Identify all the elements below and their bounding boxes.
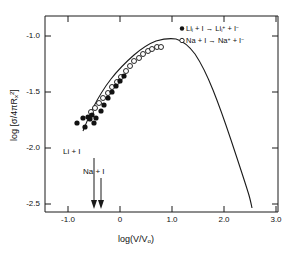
legend-li-reactant-sub: i [192, 27, 193, 33]
y-axis-title-prefix: log [ [9, 124, 19, 141]
series-na-points [89, 45, 164, 115]
legend-na-reactant: Na [186, 36, 196, 45]
y-tick-label-1: -1.5 [16, 88, 40, 96]
annotation-label-li: Li + I [63, 147, 81, 156]
annotation-arrow-li [91, 158, 97, 209]
legend-label-na: Na + I → Na+ + I− [186, 36, 244, 45]
x-tick-label-0: -1.0 [55, 216, 81, 224]
x-axis-title-prefix: log(V/V [118, 234, 148, 244]
model-curve [83, 39, 252, 208]
legend-na-product-sup: + [228, 36, 231, 42]
y-tick-label-3: -2.5 [16, 200, 40, 208]
legend-na-product: Na [218, 36, 228, 45]
x-tick-label-3: 2.0 [211, 216, 237, 224]
sigma-symbol: σ [9, 118, 19, 124]
x-tick-label-1: 0 [107, 216, 133, 224]
legend-li-arrow: → [206, 24, 214, 33]
annotation-arrow-na [98, 178, 104, 209]
legend-li-product-sup: + [222, 24, 225, 30]
y-axis-title-suffix: ] [9, 89, 19, 92]
y-axis-ticks [45, 36, 278, 204]
legend-na-plus-2: + [233, 36, 237, 45]
legend-entry-li: Lii + I → Lii+ + I− [179, 24, 239, 33]
legend-label-li: Lii + I → Lii+ + I− [186, 24, 239, 33]
plot-canvas [0, 0, 291, 260]
annotation-label-na: Na + I [83, 167, 105, 176]
y-tick-label-2: -2.0 [16, 144, 40, 152]
x-tick-label-4: 3.0 [263, 216, 289, 224]
y-axis-title-sup: 2 [8, 92, 15, 95]
y-tick-label-0: -1.0 [16, 32, 40, 40]
y-axis-title: log [σ/4πRx2] [9, 55, 19, 175]
legend-na-arrow: → [208, 36, 216, 45]
legend-li-plus-1: + [195, 24, 199, 33]
legend-na-plus-1: + [198, 36, 202, 45]
y-axis-title-mid: /4πR [9, 98, 19, 118]
legend-na-partner: I [204, 36, 206, 45]
legend-li-product-partner-sup: − [236, 24, 239, 30]
x-axis-title: log(V/Vo) [118, 235, 154, 244]
legend-li-partner: I [202, 24, 204, 33]
legend-li-plus-2: + [227, 24, 231, 33]
legend-entry-na: Na + I → Na+ + I− [179, 36, 244, 45]
x-axis-title-suffix: ) [151, 234, 154, 244]
figure-panel: -1.0 -1.5 -2.0 -2.5 -1.0 0 1.0 2.0 3.0 l… [0, 0, 291, 260]
legend-na-product-partner-sup: − [241, 36, 244, 42]
y-axis-title-sub: x [12, 95, 19, 98]
x-tick-label-2: 1.0 [159, 216, 185, 224]
